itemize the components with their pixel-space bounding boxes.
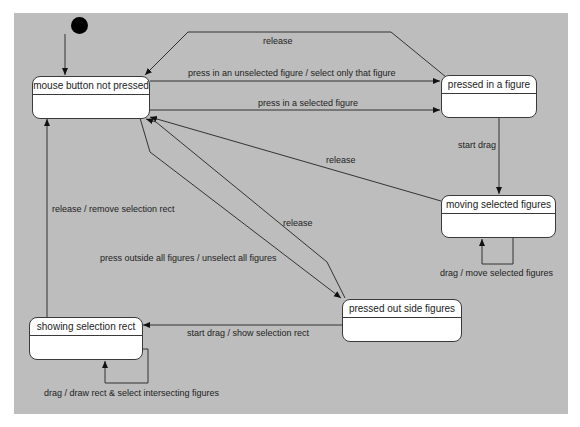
state-pressed-out-side-figures: pressed out side figures — [342, 299, 462, 342]
transition-label: start drag — [458, 140, 496, 151]
state-mouse-button-not-pressed: mouse button not pressed — [32, 76, 150, 119]
transition-label: press outside all figures / unselect all… — [100, 253, 277, 264]
transition-label: start drag / show selection rect — [187, 328, 309, 339]
transition-label: release — [263, 36, 293, 47]
transition-label: release — [283, 218, 313, 229]
state-name: moving selected figures — [442, 196, 555, 214]
transition-label: drag / move selected figures — [440, 268, 553, 279]
state-pressed-in-a-figure: pressed in a figure — [441, 75, 537, 118]
state-name: pressed in a figure — [442, 76, 536, 94]
state-showing-selection-rect: showing selection rect — [29, 317, 143, 360]
state-name: pressed out side figures — [343, 300, 461, 318]
state-moving-selected-figures: moving selected figures — [441, 195, 556, 238]
transition-label: release — [326, 155, 356, 166]
transition-label: press in an unselected figure / select o… — [188, 68, 396, 79]
transition-label: press in a selected figure — [258, 98, 358, 109]
state-name: mouse button not pressed — [33, 77, 149, 95]
transition-label: drag / draw rect & select intersecting f… — [44, 388, 219, 399]
transition-label: release / remove selection rect — [52, 204, 175, 215]
state-name: showing selection rect — [30, 318, 142, 336]
